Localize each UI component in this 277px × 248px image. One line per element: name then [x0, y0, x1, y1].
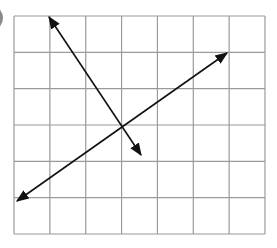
grid: [14, 16, 265, 234]
label-circle-fragment: [0, 7, 3, 29]
steep-line: [49, 17, 141, 155]
grid-diagram: [0, 0, 277, 248]
